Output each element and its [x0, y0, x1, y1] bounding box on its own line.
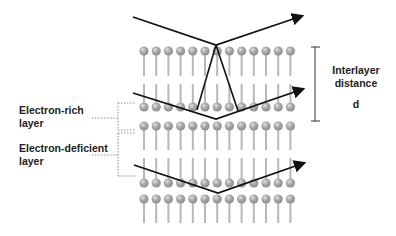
molecule [249, 158, 258, 188]
molecule [200, 158, 209, 188]
molecule [237, 194, 246, 223]
molecule [164, 46, 173, 76]
molecule [188, 121, 197, 150]
molecule [200, 84, 209, 112]
molecule [152, 121, 161, 150]
molecule [213, 121, 222, 150]
molecule [249, 46, 258, 76]
molecule [200, 194, 209, 223]
molecule [188, 84, 197, 112]
molecule [176, 158, 185, 188]
molecule [249, 121, 258, 150]
molecule [188, 194, 197, 223]
interlayer-label-line2: distance [316, 77, 396, 90]
molecule [249, 194, 258, 223]
molecule [261, 121, 270, 150]
molecule [225, 84, 234, 112]
molecule [286, 158, 295, 188]
molecule [286, 46, 295, 76]
electron-deficient-label: Electron-deficient layer [19, 142, 108, 168]
molecule [164, 158, 173, 188]
molecule [274, 121, 283, 150]
molecule [139, 121, 148, 150]
molecule [286, 84, 295, 112]
molecule [237, 84, 246, 112]
diffraction-diagram: Electron-rich layer Electron-deficient l… [0, 0, 396, 236]
molecule [225, 121, 234, 150]
molecule [286, 121, 295, 150]
interlayer-label-line1: Interlayer [316, 64, 396, 77]
molecule [152, 84, 161, 112]
electron-deficient-label-line1: Electron-deficient [19, 142, 108, 155]
molecule [237, 46, 246, 76]
electron-rich-label-line1: Electron-rich [19, 104, 84, 117]
interlayer-distance-label: Interlayer distance d [316, 64, 396, 111]
molecule [152, 46, 161, 76]
molecule [200, 121, 209, 150]
upper-ray [133, 16, 302, 45]
molecule [225, 158, 234, 188]
molecule [213, 84, 222, 112]
molecule [164, 121, 173, 150]
molecule [188, 46, 197, 76]
molecule-layers [139, 46, 295, 223]
molecule [164, 194, 173, 223]
molecule [261, 158, 270, 188]
molecule [213, 158, 222, 188]
molecule [176, 46, 185, 76]
molecule [261, 194, 270, 223]
molecule [139, 158, 148, 188]
molecule [176, 194, 185, 223]
molecule [139, 194, 148, 223]
molecule [286, 194, 295, 223]
interlayer-symbol-d: d [316, 98, 396, 111]
molecule [164, 84, 173, 112]
molecule [225, 46, 234, 76]
molecule [261, 84, 270, 112]
molecule [274, 194, 283, 223]
molecule [213, 194, 222, 223]
molecule [152, 194, 161, 223]
molecule [139, 46, 148, 76]
electron-rich-label-line2: layer [19, 117, 84, 130]
electron-deficient-label-line2: layer [19, 155, 108, 168]
molecule [225, 194, 234, 223]
molecule [274, 46, 283, 76]
electron-rich-label: Electron-rich layer [19, 104, 84, 130]
molecule [237, 121, 246, 150]
molecule [261, 46, 270, 76]
molecule [176, 121, 185, 150]
